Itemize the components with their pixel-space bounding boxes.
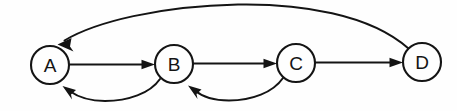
node-c-label: C xyxy=(289,53,303,74)
node-a[interactable]: A xyxy=(31,46,69,84)
node-c[interactable]: C xyxy=(277,44,315,82)
edge-a-to-b-arrowhead xyxy=(142,60,156,69)
edge-b-to-c-arrowhead xyxy=(264,59,278,68)
node-d[interactable]: D xyxy=(403,43,441,81)
edge-b-to-a xyxy=(63,79,161,101)
edge-c-to-b-arrowhead xyxy=(188,86,202,100)
edge-c-to-b-path xyxy=(195,78,283,101)
edge-b-to-c xyxy=(193,59,277,68)
node-b-label: B xyxy=(168,54,181,75)
graph-canvas: A B C D xyxy=(0,0,457,111)
edge-d-to-a xyxy=(58,4,409,51)
node-a-label: A xyxy=(44,55,57,76)
edge-d-to-a-path xyxy=(65,4,409,48)
edge-c-to-d xyxy=(315,58,403,67)
edge-c-to-b xyxy=(188,78,283,101)
graph-diagram: A B C D xyxy=(0,0,457,111)
node-b[interactable]: B xyxy=(155,45,193,83)
edge-a-to-b xyxy=(70,60,156,69)
edge-b-to-a-path xyxy=(70,79,161,101)
edge-c-to-d-arrowhead xyxy=(390,58,404,67)
node-d-label: D xyxy=(415,52,429,73)
